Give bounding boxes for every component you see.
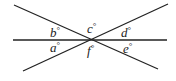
intersecting-lines-diagram: a°b°c°d°e°f° xyxy=(0,0,176,81)
descending-line xyxy=(14,5,158,69)
angle-label-a: a° xyxy=(50,40,61,55)
angle-label-d: d° xyxy=(121,25,132,40)
diagram-container: a°b°c°d°e°f° xyxy=(0,0,176,81)
angle-label-b: b° xyxy=(50,25,61,40)
angle-label-c: c° xyxy=(87,21,97,36)
angle-label-f: f° xyxy=(87,43,95,58)
ascending-line xyxy=(23,4,168,71)
angle-label-e: e° xyxy=(123,41,133,56)
